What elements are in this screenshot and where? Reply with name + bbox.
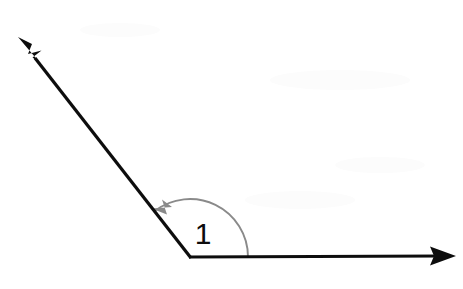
angle-label: 1	[195, 217, 212, 250]
diagram-canvas: 1	[0, 0, 463, 289]
angle-diagram-figure: 1	[0, 0, 463, 289]
horizontal-ray-line	[189, 256, 440, 257]
paper-background	[0, 0, 463, 289]
